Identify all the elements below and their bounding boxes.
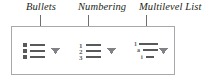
chevron-down-icon[interactable] [107,48,116,54]
bullets-button[interactable] [23,26,60,75]
multilevel-list-button[interactable]: 1 a i [134,26,168,75]
numbering-button[interactable]: 1 2 3 [79,26,116,75]
bullet-list-icon [23,41,45,61]
callout-label-numbering: Numbering [78,1,126,13]
annotated-ribbon-screenshot: Bullets Numbering Multilevel List [0,0,214,80]
svg-text:a: a [137,47,140,53]
svg-text:i: i [141,54,143,60]
callout-label-multilevel: Multilevel List [139,1,201,13]
numbered-list-icon: 1 2 3 [79,41,101,61]
svg-text:3: 3 [79,53,83,61]
chevron-down-icon[interactable] [51,48,60,54]
multilevel-list-icon: 1 a i [134,40,158,62]
chevron-down-icon[interactable] [159,48,168,54]
ribbon-button-row: 1 2 3 1 [11,26,175,75]
callout-label-bullets: Bullets [26,1,56,13]
